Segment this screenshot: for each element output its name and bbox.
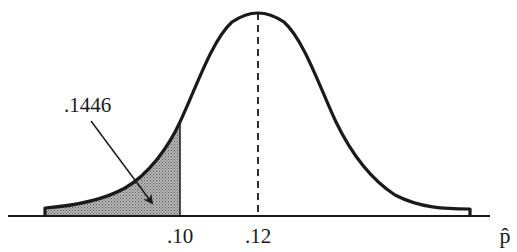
shaded-tail-area bbox=[45, 122, 180, 216]
axis-label-p-hat: p̂ bbox=[500, 223, 511, 248]
area-label: .1446 bbox=[64, 93, 111, 117]
cutoff-tick-label: .10 bbox=[167, 224, 193, 248]
mean-tick-label: .12 bbox=[245, 224, 271, 248]
normal-curve-diagram: .1446 .10 .12 p̂ bbox=[0, 0, 517, 252]
